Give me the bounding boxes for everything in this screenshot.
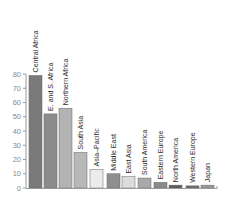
bar-south-asia bbox=[74, 152, 87, 188]
category-label: Central Africa bbox=[32, 30, 39, 72]
y-tick-label: 70 bbox=[13, 84, 21, 93]
y-tick-label: 30 bbox=[13, 141, 21, 150]
category-label: Western Europe bbox=[189, 132, 197, 183]
category-label: Eastern Europe bbox=[157, 131, 165, 180]
bars: Central AfricaE. and S. AfricaNorthern A… bbox=[29, 30, 214, 188]
category-label: Northern Africa bbox=[62, 58, 69, 105]
bar-northern-africa bbox=[59, 108, 72, 188]
bar-east-asia bbox=[122, 177, 135, 188]
bar-chart: 01020304050607080 Central AfricaE. and S… bbox=[0, 0, 239, 202]
bar-western-europe bbox=[186, 186, 199, 188]
category-label: Middle East bbox=[110, 134, 117, 171]
category-label: South Asia bbox=[77, 116, 84, 150]
category-label: Asia–Pacific bbox=[93, 128, 100, 167]
bar-e-and-s-africa bbox=[44, 114, 57, 188]
bar-south-america bbox=[138, 178, 151, 188]
bar-eastern-europe bbox=[154, 182, 167, 188]
y-tick-label: 0 bbox=[17, 184, 21, 193]
category-label: E. and S. Africa bbox=[47, 63, 54, 111]
category-label: Japan bbox=[204, 163, 212, 182]
bar-asia-pacific bbox=[90, 169, 103, 188]
y-axis: 01020304050607080 bbox=[13, 70, 26, 193]
bar-north-america bbox=[169, 185, 182, 188]
category-label: North America bbox=[172, 138, 179, 182]
bar-central-africa bbox=[29, 75, 42, 188]
y-tick-label: 50 bbox=[13, 112, 21, 121]
y-tick-label: 40 bbox=[13, 127, 21, 136]
y-tick-label: 80 bbox=[13, 70, 21, 79]
category-label: South America bbox=[141, 129, 148, 175]
y-tick-label: 10 bbox=[13, 169, 21, 178]
bar-japan bbox=[201, 185, 214, 188]
y-tick-label: 20 bbox=[13, 155, 21, 164]
bar-middle-east bbox=[107, 174, 120, 188]
category-label: East Asia bbox=[125, 144, 132, 173]
y-tick-label: 60 bbox=[13, 98, 21, 107]
